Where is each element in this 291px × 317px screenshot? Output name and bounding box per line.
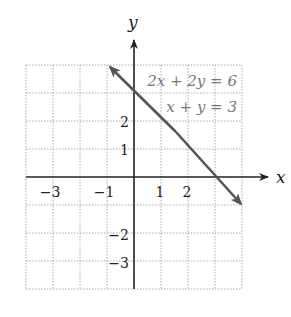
y-tick-neg2: −2 [108,227,129,243]
equation-2: x + y = 3 [166,98,237,116]
y-tick-2: 2 [120,114,129,130]
x-tick-1: 1 [156,184,165,200]
x-tick-neg3: −3 [40,184,61,200]
x-tick-2: 2 [183,184,192,200]
graph: y x 2x + 2y = 6 x + y = 3 −3 −1 1 2 2 1 … [0,0,291,317]
equation-1: 2x + 2y = 6 [146,72,237,90]
y-axis-label: y [127,12,138,32]
x-tick-neg1: −1 [94,184,115,200]
y-tick-1: 1 [120,142,129,158]
x-axis-label: x [276,167,286,187]
y-tick-neg3: −3 [108,255,129,271]
